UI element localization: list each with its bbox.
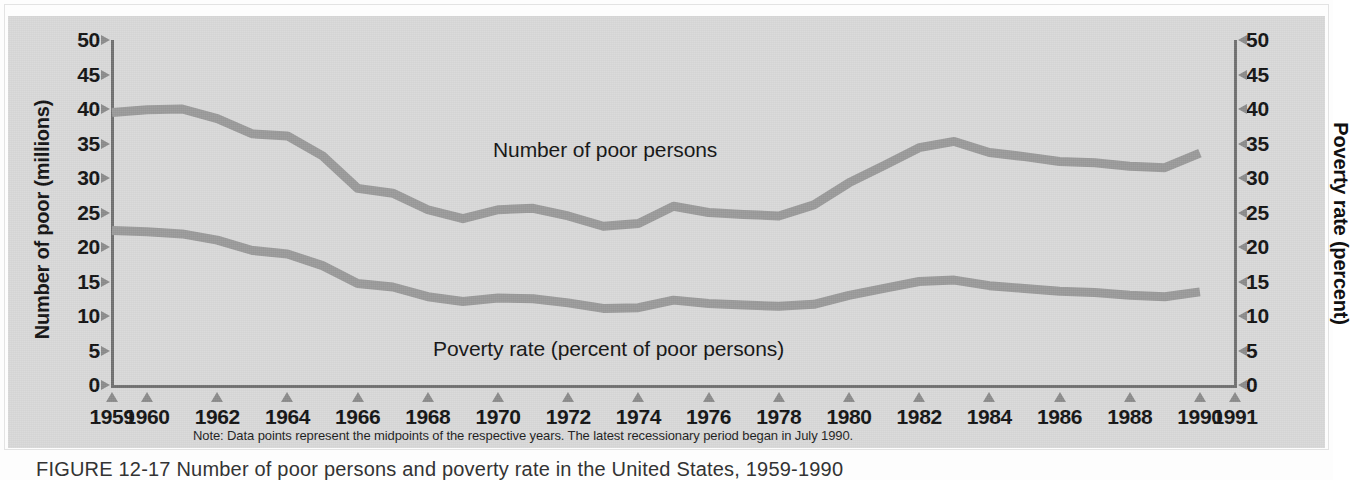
x-tickmark-1980 [843,392,855,402]
series-line-number-of-poor [112,109,1200,226]
x-tickmark-1964 [281,392,293,402]
chart-note: Note: Data points represent the midpoint… [193,428,853,443]
x-tick-label-1991: 1991 [1212,405,1257,429]
x-tick-label-1982: 1982 [897,405,942,429]
x-tick-label-1972: 1972 [546,405,591,429]
x-tickmark-1991 [1229,392,1241,402]
x-tick-label-1964: 1964 [265,405,310,429]
chart-panel: Number of poor (millions) Poverty rate (… [8,16,1325,448]
x-tick-label-1988: 1988 [1107,405,1152,429]
x-tick-label-1962: 1962 [195,405,240,429]
x-tickmark-1982 [913,392,925,402]
x-tickmark-1972 [562,392,574,402]
x-tickmark-1978 [773,392,785,402]
x-tickmark-1970 [492,392,504,402]
x-tickmark-1988 [1124,392,1136,402]
x-tick-label-1978: 1978 [756,405,801,429]
x-tickmark-1962 [211,392,223,402]
x-tickmark-1968 [422,392,434,402]
x-tick-label-1966: 1966 [335,405,380,429]
figure-caption: FIGURE 12-17 Number of poor persons and … [36,458,843,480]
y-axis-right-title: Poverty rate (percent) [1329,104,1352,344]
x-tick-label-1968: 1968 [405,405,450,429]
x-tick-label-1976: 1976 [686,405,731,429]
x-tickmark-1976 [703,392,715,402]
x-tickmark-1966 [352,392,364,402]
series-label-number-of-poor: Number of poor persons [493,138,717,162]
x-tick-label-1984: 1984 [967,405,1012,429]
x-tick-label-1986: 1986 [1037,405,1082,429]
x-tick-label-1980: 1980 [826,405,871,429]
x-tick-label-1970: 1970 [475,405,520,429]
x-tickmark-1984 [983,392,995,402]
x-tickmark-1959 [106,392,118,402]
x-tick-label-1960: 1960 [125,405,170,429]
x-tickmark-1974 [632,392,644,402]
x-tickmark-1960 [141,392,153,402]
x-tickmark-1990 [1194,392,1206,402]
plot-area [8,16,1325,448]
series-label-poverty-rate: Poverty rate (percent of poor persons) [433,337,784,361]
x-tickmark-1986 [1054,392,1066,402]
series-line-poverty-rate [112,230,1200,308]
x-tick-label-1974: 1974 [616,405,661,429]
